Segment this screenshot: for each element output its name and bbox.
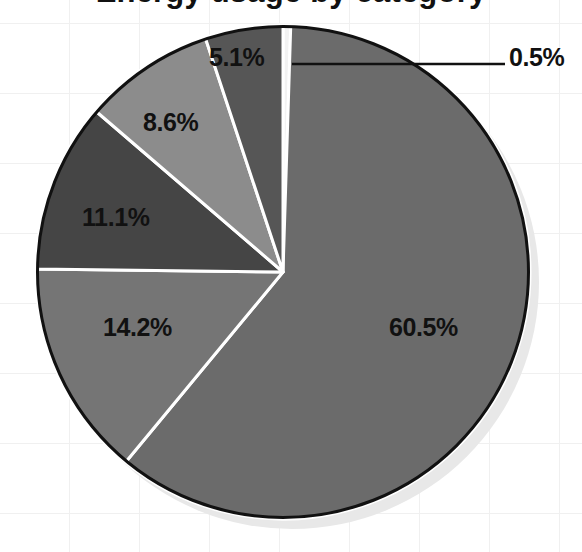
pie-chart-screenshot: Energy usage by category 60.5% 14.2% 11.… — [0, 0, 582, 552]
slice-label-11-1: 11.1% — [82, 203, 150, 232]
slice-label-60-5: 60.5% — [389, 313, 458, 342]
slice-label-8-6: 8.6% — [143, 108, 198, 137]
slice-label-5-1: 5.1% — [209, 43, 264, 72]
pie-chart-graphic — [0, 0, 582, 552]
slice-label-14-2: 14.2% — [103, 313, 172, 342]
slice-label-0-5: 0.5% — [509, 43, 564, 72]
